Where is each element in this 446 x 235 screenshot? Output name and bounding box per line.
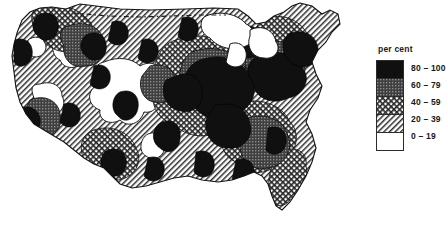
- legend-pattern-hatch: [377, 115, 403, 132]
- legend-label-80-100: 80 – 100: [411, 60, 446, 77]
- legend-pattern-dark: [377, 79, 403, 96]
- legend-pattern-crosshatch: [377, 97, 403, 114]
- legend-label-60-79: 60 – 79: [411, 77, 446, 94]
- legend-swatch-40-59: [377, 97, 403, 115]
- map-legend: per cent: [376, 44, 434, 151]
- legend-swatch-20-39: [377, 115, 403, 133]
- legend-label-20-39: 20 – 39: [411, 111, 446, 128]
- legend-swatch-0-19: [377, 133, 403, 150]
- legend-swatch-60-79: [377, 79, 403, 97]
- legend-label-0-19: 0 – 19: [411, 128, 446, 145]
- legend-swatch-column: [376, 60, 404, 151]
- legend-label-column: 80 – 100 60 – 79 40 – 59 20 – 39 0 – 19: [404, 60, 446, 151]
- legend-swatch-80-100: [377, 61, 403, 79]
- map-choropleth-layers: [0, 0, 360, 235]
- legend-label-40-59: 40 – 59: [411, 94, 446, 111]
- legend-title: per cent: [378, 44, 434, 54]
- legend-body: 80 – 100 60 – 79 40 – 59 20 – 39 0 – 19: [376, 60, 434, 151]
